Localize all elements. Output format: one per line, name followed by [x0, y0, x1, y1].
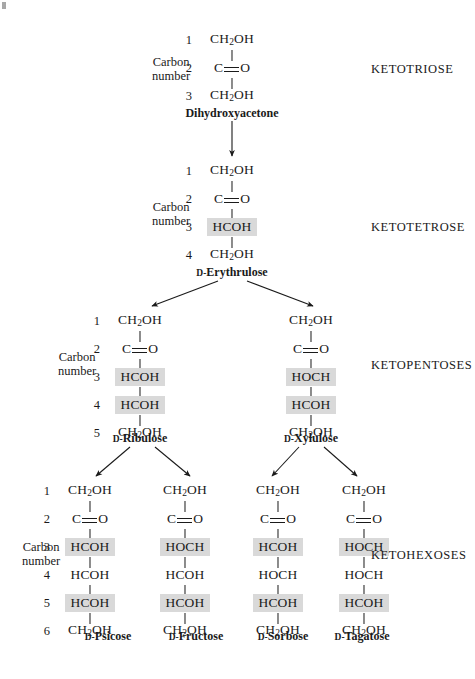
- carbon-row: CH2OH: [337, 477, 391, 505]
- functional-group-highlighted: HCOH: [65, 538, 114, 556]
- carbon-row: HCOH: [251, 533, 305, 561]
- compound-name-d-fructose: D-Fructose: [169, 629, 224, 644]
- arrow-erythrulose-to-xylulose: [247, 281, 313, 306]
- carbon-number-label-tetrose: Carbon number: [152, 200, 190, 228]
- carbon-number: 4: [94, 398, 100, 413]
- carbon-row: CH2OH: [158, 477, 212, 505]
- stereo-prefix: D-: [169, 632, 179, 642]
- carbon-number: 2: [44, 512, 50, 527]
- compound-name-text: Dihydroxyacetone: [185, 106, 278, 120]
- functional-group-highlighted: HOCH: [160, 538, 209, 556]
- carbon-number-label-hexoses: Carbon number: [22, 540, 60, 568]
- carbon-row: CH2OH: [284, 307, 338, 335]
- compound-name-text: Fructose: [179, 629, 224, 643]
- arrow-xylulose-to-tagatose: [324, 447, 357, 476]
- stereo-prefix: D-: [85, 632, 95, 642]
- carbon-number-label-pentoses: Carbon number: [58, 350, 96, 378]
- functional-group-highlighted: HCOH: [115, 396, 164, 414]
- compound-name-dihydroxyacetone: Dihydroxyacetone: [185, 106, 278, 121]
- functional-group: CO: [162, 510, 208, 528]
- functional-group: CO: [341, 510, 387, 528]
- carbon-row: 4HCOH: [113, 391, 167, 419]
- stereo-prefix: D-: [196, 268, 206, 278]
- double-bond-icon: [303, 346, 318, 355]
- functional-group-highlighted: HCOH: [115, 368, 164, 386]
- stereo-prefix: D-: [335, 632, 345, 642]
- functional-group-highlighted: HCOH: [253, 538, 302, 556]
- carbon-row: HOCH: [337, 561, 391, 589]
- functional-group: CH2OH: [113, 311, 167, 331]
- carbon-row: HCOH: [337, 589, 391, 617]
- carbon-number: 3: [186, 89, 192, 104]
- class-label-ketotetrose: KETOTETROSE: [371, 220, 465, 235]
- arrow-xylulose-to-sorbose: [272, 447, 299, 476]
- functional-group-highlighted: HCOH: [253, 594, 302, 612]
- carbon-row: 1CH2OH: [113, 307, 167, 335]
- carbon-row: 3HCOH: [205, 213, 259, 241]
- molecule-d-sorbose: CH2OHCOHCOHHOCHHCOHCH2OH: [251, 477, 305, 645]
- carbon-row: CO: [158, 505, 212, 533]
- compound-name-text: Sorbose: [268, 629, 309, 643]
- carbon-row: 2CO: [113, 335, 167, 363]
- carbon-row: HCOH: [284, 391, 338, 419]
- compound-name-d-erythrulose: D-Erythrulose: [196, 265, 267, 280]
- compound-name-d-psicose: D-Psicose: [85, 629, 132, 644]
- functional-group: CH2OH: [205, 86, 259, 106]
- carbon-row: 3HCOH: [63, 533, 117, 561]
- carbon-row: 2CO: [205, 54, 259, 82]
- molecule-d-xylulose: CH2OHCOHOCHHCOHCH2OH: [284, 307, 338, 447]
- double-bond-icon: [356, 516, 371, 525]
- compound-name-text: Ribulose: [123, 431, 168, 445]
- arrow-erythrulose-to-ribulose: [152, 281, 218, 306]
- functional-group: HCOH: [65, 566, 114, 584]
- double-bond-icon: [82, 516, 97, 525]
- carbon-row: 1CH2OH: [63, 477, 117, 505]
- functional-group-highlighted: HCOH: [160, 594, 209, 612]
- compound-name-d-tagatose: D-Tagatose: [335, 629, 390, 644]
- molecule-dihydroxyacetone: 1CH2OH2CO3CH2OH: [205, 26, 259, 110]
- double-bond-icon: [132, 346, 147, 355]
- compound-name-d-sorbose: D-Sorbose: [258, 629, 309, 644]
- molecule-d-psicose: 1CH2OH2CO3HCOH4HCOH5HCOH6CH2OH: [63, 477, 117, 645]
- functional-group-highlighted: HCOH: [207, 218, 256, 236]
- functional-group-highlighted: HOCH: [286, 368, 335, 386]
- compound-name-d-xylulose: D-Xylulose: [284, 431, 338, 446]
- functional-group: HCOH: [160, 566, 209, 584]
- functional-group: CH2OH: [251, 481, 305, 501]
- carbon-row: HCOH: [158, 561, 212, 589]
- double-bond-icon: [270, 516, 285, 525]
- carbon-number: 1: [94, 314, 100, 329]
- molecule-d-fructose: CH2OHCOHOCHHCOHHCOHCH2OH: [158, 477, 212, 645]
- functional-group: CO: [209, 190, 255, 208]
- arrow-ribulose-to-psicose: [96, 447, 130, 476]
- carbon-number: 5: [94, 426, 100, 441]
- carbon-row: 1CH2OH: [205, 157, 259, 185]
- functional-group: CO: [67, 510, 113, 528]
- compound-name-text: Psicose: [95, 629, 132, 643]
- carbon-number-label-triose: Carbon number: [152, 55, 190, 83]
- double-bond-icon: [177, 516, 192, 525]
- carbon-row: HCOH: [158, 589, 212, 617]
- compound-name-text: Tagatose: [345, 629, 390, 643]
- carbon-number: 1: [186, 164, 192, 179]
- carbon-number: 5: [44, 596, 50, 611]
- functional-group: CH2OH: [205, 245, 259, 265]
- carbon-row: HOCH: [284, 363, 338, 391]
- functional-group-highlighted: HCOH: [339, 594, 388, 612]
- functional-group-highlighted: HCOH: [286, 396, 335, 414]
- class-label-ketotriose: KETOTRIOSE: [371, 62, 453, 77]
- ketose-family-tree-figure: 1CH2OH2CO3CH2OH Carbon number Dihydroxya…: [0, 0, 475, 679]
- functional-group: CO: [117, 340, 163, 358]
- carbon-row: CH2OH: [251, 477, 305, 505]
- carbon-number: 1: [44, 484, 50, 499]
- carbon-row: CO: [251, 505, 305, 533]
- carbon-number: 1: [186, 33, 192, 48]
- carbon-row: 2CO: [63, 505, 117, 533]
- carbon-number: 6: [44, 624, 50, 639]
- class-label-ketohexoses: KETOHEXOSES: [371, 548, 466, 563]
- carbon-number: 4: [186, 248, 192, 263]
- functional-group: CH2OH: [205, 30, 259, 50]
- molecule-d-ribulose: 1CH2OH2CO3HCOH4HCOH5CH2OH: [113, 307, 167, 447]
- functional-group: CH2OH: [63, 481, 117, 501]
- functional-group: CO: [288, 340, 334, 358]
